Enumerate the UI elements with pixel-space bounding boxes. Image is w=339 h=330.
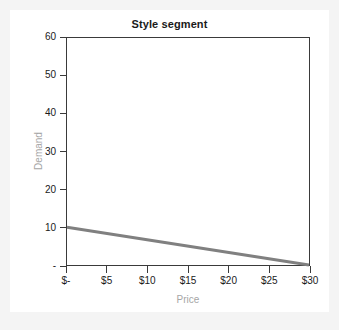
x-axis-tick-label: $5 [101,276,112,286]
y-axis-tick-label: 20 [45,184,60,194]
y-axis-tick-label: 30 [45,146,60,156]
x-axis-tick-mark [66,266,67,273]
y-axis-tick-label: 40 [45,108,60,118]
demand-line-series [67,38,309,265]
x-axis-tick-mark [188,266,189,273]
x-axis-tick-mark [310,266,311,273]
chart-title: Style segment [10,18,329,30]
y-axis-title: Demand [33,132,44,170]
x-axis-tick-mark [106,266,107,273]
y-axis-tick-label: - [53,261,60,271]
x-axis-tick-label: $25 [261,276,278,286]
y-axis-tick-label: 50 [45,70,60,80]
x-axis-tick-label: $- [62,276,71,286]
y-axis-tick-label: 60 [45,32,60,42]
y-axis-tick-label: 10 [45,222,60,232]
chart-card: Style segment -102030405060 $-$5$10$15$2… [10,10,329,312]
x-axis-tick-label: $10 [139,276,156,286]
demand-curve-line [67,227,309,265]
x-axis-tick-label: $30 [302,276,319,286]
plot-area [66,37,310,266]
x-axis-tick-mark [147,266,148,273]
x-axis-tick-mark [228,266,229,273]
x-axis-tick-mark [269,266,270,273]
x-axis-tick-label: $15 [180,276,197,286]
x-axis-title: Price [66,294,310,305]
x-axis-tick-label: $20 [220,276,237,286]
